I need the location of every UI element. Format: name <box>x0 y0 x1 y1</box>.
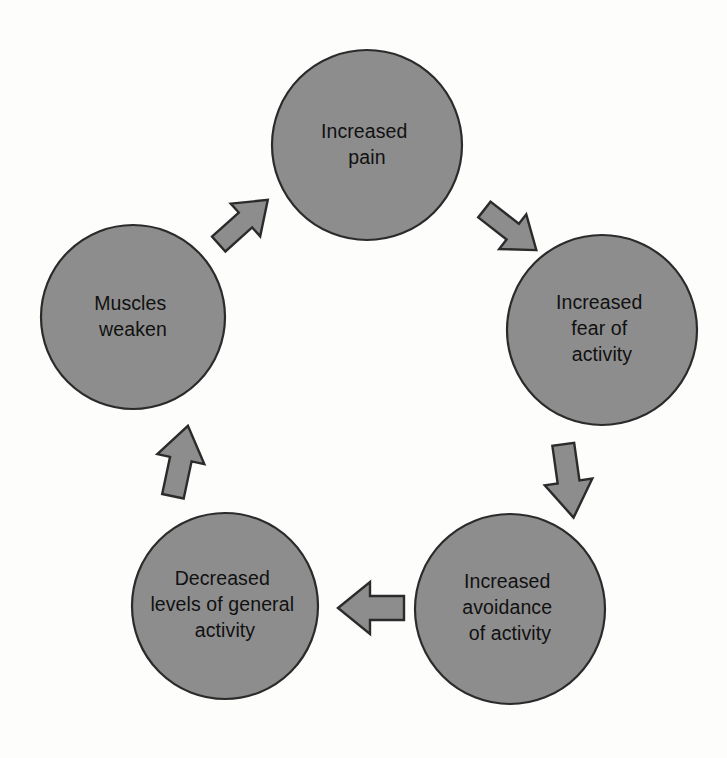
arrow-pain-to-fear <box>471 192 550 267</box>
arrow-muscles-to-pain <box>204 184 282 261</box>
arrow-decreased-to-muscles <box>149 421 211 501</box>
cycle-diagram: Increased pain Increased fear of activit… <box>0 0 727 758</box>
node-increased-fear-of-activity[interactable]: Increased fear of activity <box>507 235 697 425</box>
node-label: Increased avoidance of activity <box>462 570 557 644</box>
arrow-up-icon <box>149 421 211 501</box>
node-increased-pain[interactable]: Increased pain <box>272 50 462 240</box>
diagram-canvas: Increased pain Increased fear of activit… <box>0 0 727 758</box>
arrow-down-icon <box>540 441 598 521</box>
node-muscles-weaken[interactable]: Muscles weaken <box>41 225 225 409</box>
node-decreased-levels-of-general-activity[interactable]: Decreased levels of general activity <box>132 513 318 699</box>
node-circle[interactable] <box>41 225 225 409</box>
node-increased-avoidance-of-activity[interactable]: Increased avoidance of activity <box>415 514 605 704</box>
arrow-fear-to-avoidance <box>540 441 598 521</box>
arrow-avoidance-to-decreased <box>338 582 404 634</box>
arrow-left-icon <box>338 582 404 634</box>
arrow-up-right-icon <box>204 184 282 261</box>
arrow-down-right-icon <box>471 192 550 267</box>
node-circle[interactable] <box>272 50 462 240</box>
